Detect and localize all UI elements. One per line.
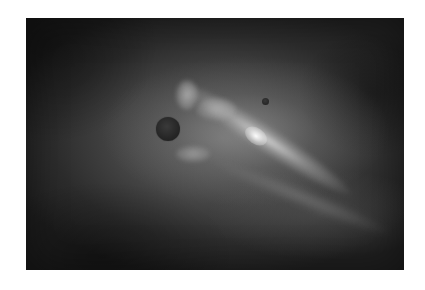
space-nebula-image [26,18,404,270]
image-vignette [26,18,404,270]
page-canvas [0,0,425,290]
